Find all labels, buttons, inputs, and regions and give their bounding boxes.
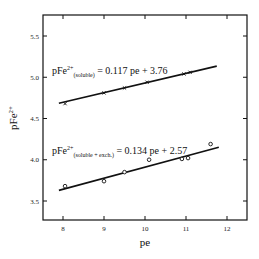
data-point-circle: [180, 157, 184, 161]
y-tick-label: 3.5: [30, 198, 39, 206]
x-tick-labels: 89101112: [61, 225, 231, 233]
data-point-circle: [147, 158, 151, 162]
data-point-circle: [63, 184, 67, 188]
data-point-circle: [102, 179, 106, 183]
data-point-circle: [123, 170, 127, 174]
y-axis-label: pFe2+: [7, 106, 19, 130]
equation-soluble-exch: pFe2+(soluble + exch.) = 0.134 pe + 2.57: [52, 145, 187, 159]
equation-soluble: pFe2+(soluble) = 0.117 pe + 3.76: [52, 65, 168, 79]
series-layer: [59, 66, 219, 190]
y-tick-label: 4.0: [30, 156, 39, 164]
x-tick-label: 9: [102, 225, 106, 233]
data-point-circle: [209, 142, 213, 146]
data-point-circle: [186, 156, 190, 160]
plot-frame: [43, 15, 247, 220]
y-tick-label: 5.5: [30, 33, 39, 41]
x-tick-label: 8: [61, 225, 65, 233]
x-tick-label: 11: [183, 225, 190, 233]
x-axis-label: pe: [140, 236, 151, 248]
axis-ticks: [43, 15, 247, 220]
y-tick-label: 4.5: [30, 115, 39, 123]
y-tick-label: 5.0: [30, 74, 39, 82]
x-tick-label: 12: [224, 225, 232, 233]
y-tick-labels: 3.54.04.55.05.5: [30, 33, 39, 206]
chart: 89101112 3.54.04.55.05.5 pe pFe2+ pFe2+(…: [0, 0, 259, 259]
x-tick-label: 10: [142, 225, 150, 233]
